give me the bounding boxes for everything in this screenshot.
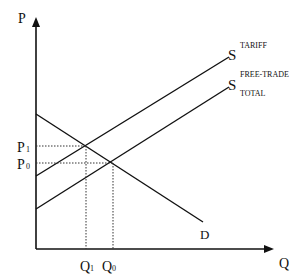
demand-label: D bbox=[200, 228, 209, 241]
supply-free-trade-superscript: FREE-TRADE bbox=[240, 70, 289, 79]
supply-tariff-curve bbox=[36, 57, 229, 176]
p0-sub: 0 bbox=[26, 162, 30, 171]
x-axis-arrow-icon bbox=[264, 245, 274, 253]
supply-tariff-s: S bbox=[228, 47, 236, 63]
q1-main: Q bbox=[80, 259, 90, 274]
supply-free-trade-label: S FREE-TRADE TOTAL bbox=[228, 76, 236, 94]
demand-curve bbox=[36, 114, 203, 222]
supply-free-trade-subscript: TOTAL bbox=[240, 89, 265, 98]
y-axis-label: P bbox=[18, 12, 26, 26]
q1-label: Q1 bbox=[80, 257, 90, 275]
p1-sub: 1 bbox=[26, 145, 30, 154]
q0-sub: 0 bbox=[112, 264, 116, 273]
supply-tariff-label: S TARIFF bbox=[228, 46, 236, 64]
q0-label: Q0 bbox=[102, 257, 112, 275]
y-axis-arrow-icon bbox=[32, 17, 40, 27]
q1-sub: 1 bbox=[90, 264, 94, 273]
supply-tariff-superscript: TARIFF bbox=[240, 41, 267, 50]
p0-main: P bbox=[17, 157, 25, 172]
supply-free-trade-s: S bbox=[228, 77, 236, 93]
supply-free-trade-curve bbox=[36, 87, 229, 209]
p0-label: P0 bbox=[17, 155, 25, 173]
q0-main: Q bbox=[102, 259, 112, 274]
x-axis-label: Q bbox=[279, 257, 289, 271]
p1-label: P1 bbox=[17, 138, 25, 156]
p1-main: P bbox=[17, 140, 25, 155]
